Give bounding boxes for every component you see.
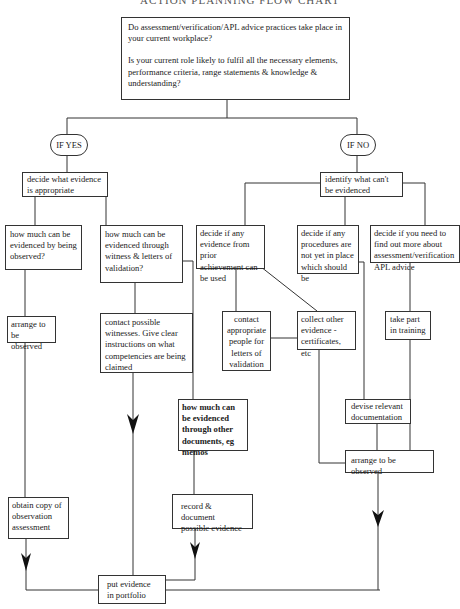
procedures-box: decide if any procedures are not yet in … (297, 225, 359, 274)
devise-documentation-box: devise relevant documentation (345, 399, 411, 424)
find-out-more-box: decide if you need to find out more abou… (370, 225, 460, 263)
observed-question-box: how much can be evidenced by being obser… (5, 225, 82, 270)
record-evidence-box: record & document possible evidence (172, 494, 253, 529)
identify-box: identify what can't be evidenced (320, 172, 403, 197)
if-yes-oval: IF YES (50, 134, 88, 156)
if-no-oval: IF NO (340, 134, 376, 156)
contact-people-box: contact appropriate people for letters o… (222, 311, 271, 371)
other-documents-question-box: how much can be evidenced through other … (178, 399, 248, 451)
decide-evidence-box: decide what evidence is appropriate (22, 172, 108, 197)
collect-evidence-box: collect other evidence - certificates, e… (297, 311, 356, 350)
training-box: take part in training (385, 311, 431, 340)
obtain-copy-box: obtain copy of observation assessment (8, 497, 69, 539)
witness-question-box: how much can be evidenced through witnes… (100, 225, 183, 283)
question-current-role: Is your current role likely to fulfil al… (128, 55, 343, 89)
arrange-observed-box: arrange to be observed (7, 316, 56, 343)
start-question-box: Do assessment/verification/APL advice pr… (121, 17, 350, 100)
question-workplace-practices: Do assessment/verification/APL advice pr… (128, 22, 343, 44)
contact-witnesses-box: contact possible witnesses. Give clear i… (100, 313, 193, 373)
prior-achievement-box: decide if any evidence from prior achiev… (196, 225, 265, 269)
arrange-observed-right-box: arrange to be observed (345, 450, 434, 473)
portfolio-box: put evidence in portfolio (98, 575, 166, 604)
